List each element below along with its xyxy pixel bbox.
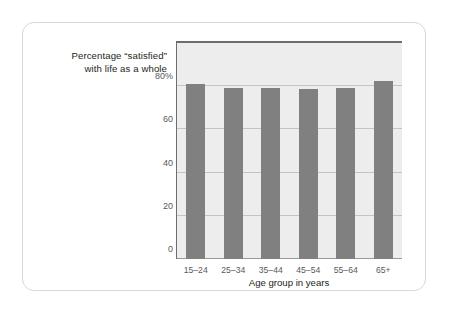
y-tick-label-20: 20 — [163, 201, 173, 211]
bars-group — [177, 43, 402, 259]
bar-65+ — [374, 81, 393, 259]
y-tick-label-60: 60 — [163, 114, 173, 124]
plot-area: 020406080% 15–2425–3435–4445–5455–6465+ — [176, 41, 402, 259]
x-tick-label-55–64: 55–64 — [334, 265, 358, 275]
figure-root: Percentage “satisfied” with life as a wh… — [0, 0, 452, 313]
x-tick-label-35–44: 35–44 — [259, 265, 283, 275]
bar-35–44 — [261, 88, 280, 259]
y-tick-label-80: 80% — [155, 71, 173, 81]
x-tick-label-45–54: 45–54 — [296, 265, 320, 275]
plot-wrapper: 020406080% 15–2425–3435–4445–5455–6465+ — [176, 41, 402, 259]
y-axis-caption-line-1: Percentage “satisfied” — [31, 49, 167, 62]
y-axis-caption-line-2: with life as a whole — [31, 62, 167, 75]
chart-card: Percentage “satisfied” with life as a wh… — [22, 22, 426, 291]
bar-55–64 — [336, 88, 355, 259]
x-tick-label-65+: 65+ — [376, 265, 391, 275]
y-axis-caption: Percentage “satisfied” with life as a wh… — [31, 49, 167, 75]
x-tick-label-25–34: 25–34 — [221, 265, 245, 275]
y-tick-label-40: 40 — [163, 158, 173, 168]
bar-45–54 — [299, 89, 318, 259]
bar-15–24 — [186, 84, 205, 259]
x-axis-title: Age group in years — [176, 277, 402, 288]
bar-25–34 — [224, 88, 243, 259]
x-tick-label-15–24: 15–24 — [184, 265, 208, 275]
y-tick-label-0: 0 — [168, 244, 173, 254]
